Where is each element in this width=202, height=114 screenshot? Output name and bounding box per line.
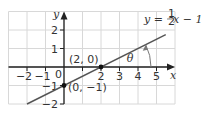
y-tick-label: 1 [51,43,58,56]
point-marker [99,65,104,70]
point-marker [62,83,67,88]
y-tick-label: 2 [51,24,58,37]
angle-label: θ [127,52,134,65]
x-tick-label: 5 [153,70,160,83]
y-axis-arrow-icon [61,12,68,20]
x-tick-label: 3 [116,70,123,83]
origin-label: 0 [55,68,62,81]
equation-prefix: y = [143,13,163,26]
x-tick-label: −2 [16,70,32,83]
point-label: (2, 0) [69,53,99,66]
equation-suffix: x − 1 [173,13,202,26]
coordinate-plot: −2−1234521−1−20xy (2, 0)(0, −1)θy = 12x … [0,0,202,114]
y-axis-label: y [52,8,60,21]
x-axis-label: x [170,69,177,82]
x-tick-label: 4 [135,70,142,83]
point-label: (0, −1) [68,81,107,94]
y-tick-label: −2 [42,98,58,111]
equation-label: y = [143,13,163,26]
